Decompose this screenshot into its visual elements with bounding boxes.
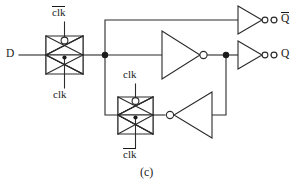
label-tg1-bottom-clk: clk <box>53 89 66 100</box>
label-qbar-output: Q <box>281 12 289 25</box>
feedback-transmission-gate <box>118 84 153 148</box>
label-tg1-top-clk-bar: clk <box>52 6 65 18</box>
feedback-inverter-triangle <box>174 92 212 138</box>
main-inverter-triangle <box>162 31 200 79</box>
label-d-input: D <box>6 48 14 60</box>
label-q-output: Q <box>281 48 289 60</box>
wire-node-to-feedback-tg <box>105 55 118 115</box>
storage-node-left <box>102 52 108 58</box>
feedback-inverter-bubble-icon <box>166 111 173 118</box>
figure-caption: (c) <box>140 166 153 178</box>
qbar-output-terminal-icon <box>271 17 277 23</box>
q-output-inverter <box>238 41 277 69</box>
label-tg2-top-clk: clk <box>123 69 136 80</box>
main-inverter <box>162 31 207 79</box>
circuit-figure: D clk clk clk clk Q Q (c) <box>0 0 298 187</box>
input-transmission-gate <box>46 22 83 88</box>
feedback-inverter <box>166 92 212 138</box>
qbar-output-inverter <box>238 6 277 34</box>
tg2-pmos-bubble-icon <box>132 98 139 105</box>
tg1-nmos-dot <box>62 55 66 59</box>
qbar-inverter-bubble-icon <box>262 17 268 23</box>
tg2-nmos-dot <box>133 115 137 119</box>
main-inverter-bubble-icon <box>200 51 207 58</box>
tg1-pmos-bubble-icon <box>61 37 68 44</box>
label-tg2-bottom-clk-bar: clk <box>123 148 136 160</box>
q-inverter-triangle <box>238 41 262 69</box>
storage-node-right <box>223 52 229 58</box>
q-output-terminal-icon <box>271 52 277 58</box>
qbar-inverter-triangle <box>238 6 262 34</box>
schematic-canvas <box>0 0 298 187</box>
q-inverter-bubble-icon <box>262 52 268 58</box>
wire-node2-to-feedback-inverter <box>212 55 226 115</box>
